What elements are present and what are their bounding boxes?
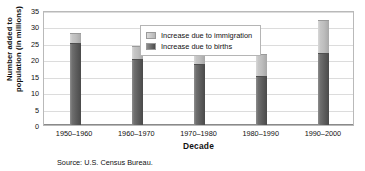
legend-label-births: Increase due to births — [161, 42, 232, 51]
y-axis-tick-label: 20 — [31, 56, 39, 65]
legend-label-immigration: Increase due to immigration — [161, 31, 252, 40]
plot-area: Increase due to immigration Increase due… — [43, 11, 354, 126]
bar-segment-births — [132, 59, 143, 125]
y-axis-tick-label: 30 — [31, 23, 39, 32]
stacked-bar[interactable] — [194, 51, 205, 125]
y-axis-tick-label: 15 — [31, 72, 39, 81]
bar-segment-births — [194, 64, 205, 125]
x-axis-tick-label: 1960–1970 — [118, 129, 155, 138]
bar-segment-births — [318, 53, 329, 125]
bar-segment-immigration — [70, 33, 81, 43]
bar-segment-immigration — [256, 54, 267, 75]
x-axis-tick-label: 1980–1990 — [242, 129, 279, 138]
y-axis-title-line-1: Number added to — [5, 17, 14, 81]
x-axis-tick-labels: 1950–19601960–19701970–19801980–19901990… — [43, 129, 354, 141]
source-note: Source: U.S. Census Bureau. — [57, 158, 153, 167]
stacked-bar[interactable] — [318, 20, 329, 125]
legend-swatch-immigration-icon — [146, 32, 156, 39]
x-axis-tick-label: 1990–2000 — [305, 129, 342, 138]
stacked-bar[interactable] — [256, 54, 267, 125]
population-growth-bar-chart: Number added to population (in millions)… — [0, 0, 365, 171]
y-axis-tick-label: 5 — [35, 105, 39, 114]
bar-segment-immigration — [318, 20, 329, 53]
y-axis-tick-label: 10 — [31, 89, 39, 98]
legend: Increase due to immigration Increase due… — [140, 25, 261, 56]
x-axis-tick-label: 1950–1960 — [56, 129, 93, 138]
y-axis-tick-label: 25 — [31, 39, 39, 48]
y-axis-tick-labels: 05101520253035 — [26, 11, 39, 126]
y-axis-title-line-2: population (in millions) — [14, 6, 23, 92]
legend-item-immigration: Increase due to immigration — [146, 30, 252, 40]
y-axis-tick-label: 35 — [31, 7, 39, 16]
legend-item-births: Increase due to births — [146, 41, 252, 51]
stacked-bar[interactable] — [132, 46, 143, 125]
bar-slot — [293, 12, 355, 125]
stacked-bar[interactable] — [70, 33, 81, 125]
x-axis-title: Decade — [43, 141, 354, 151]
bar-slot — [44, 12, 106, 125]
y-axis-tick-label: 0 — [35, 122, 39, 131]
bar-segment-births — [256, 76, 267, 125]
x-axis-tick-label: 1970–1980 — [180, 129, 217, 138]
legend-swatch-births-icon — [146, 43, 156, 50]
y-axis-title: Number added to population (in millions) — [1, 0, 27, 109]
bar-segment-births — [70, 43, 81, 125]
